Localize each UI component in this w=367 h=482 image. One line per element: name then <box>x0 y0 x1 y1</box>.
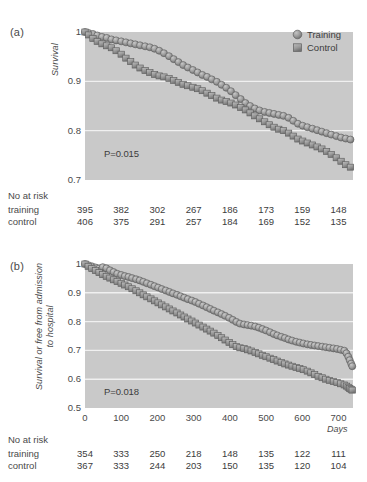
panel_b-y-tick-4: 0.9 <box>55 287 81 298</box>
risk-cell: 184 <box>215 216 245 227</box>
legend-item-control: Control <box>292 41 341 54</box>
risk-cell: 120 <box>287 460 317 471</box>
risk-cell: 122 <box>287 448 317 459</box>
risk-cell: 250 <box>142 448 172 459</box>
risk-cell: 135 <box>251 460 281 471</box>
legend-item-training: Training <box>292 28 341 41</box>
risk-cell: 169 <box>251 216 281 227</box>
panel-b-risk-row-label-control: control <box>8 460 37 471</box>
risk-cell: 186 <box>215 204 245 215</box>
risk-cell: 203 <box>179 460 209 471</box>
panel_b-x-tick-2: 200 <box>142 412 172 423</box>
risk-cell: 302 <box>142 204 172 215</box>
risk-cell: 104 <box>324 460 354 471</box>
legend-label-training: Training <box>307 29 341 40</box>
risk-cell: 244 <box>142 460 172 471</box>
panel-a-risk-row-label-control: control <box>8 216 37 227</box>
panel_a-y-tick-3: 1 <box>55 26 81 37</box>
footer-strip <box>0 474 367 482</box>
panel_b-y-tick-3: 0.8 <box>55 316 81 327</box>
panel-b-pvalue: P=0.018 <box>104 386 139 397</box>
square-marker-icon <box>292 42 303 53</box>
panel_b-y-tick-2: 0.7 <box>55 344 81 355</box>
risk-cell: 152 <box>287 216 317 227</box>
panel-a-risk-title: No at risk <box>8 190 48 201</box>
panel-b-x-axis-label: Days <box>327 424 348 434</box>
risk-cell: 382 <box>106 204 136 215</box>
panel_a-y-tick-2: 0.9 <box>55 75 81 86</box>
risk-cell: 148 <box>215 448 245 459</box>
risk-cell: 367 <box>70 460 100 471</box>
panel_b-x-tick-1: 100 <box>106 412 136 423</box>
panel_b-x-tick-7: 700 <box>324 412 354 423</box>
panel_a-y-tick-0: 0.7 <box>55 174 81 185</box>
risk-cell: 291 <box>142 216 172 227</box>
panel-a-pvalue: P=0.015 <box>104 148 139 159</box>
risk-cell: 375 <box>106 216 136 227</box>
panel_b-y-tick-1: 0.6 <box>55 373 81 384</box>
risk-cell: 257 <box>179 216 209 227</box>
panel_b-x-tick-5: 500 <box>251 412 281 423</box>
risk-cell: 395 <box>70 204 100 215</box>
chart-legend: Training Control <box>292 28 341 54</box>
circle-marker-icon <box>292 29 303 40</box>
risk-cell: 159 <box>287 204 317 215</box>
panel-b: (b) Survival or free from admission to h… <box>0 238 367 482</box>
panel-a: (a) Survival P=0.015 Training <box>0 0 367 238</box>
risk-cell: 406 <box>70 216 100 227</box>
risk-cell: 135 <box>324 216 354 227</box>
panel_b-x-tick-6: 600 <box>287 412 317 423</box>
panel-b-risk-row-label-training: training <box>8 448 39 459</box>
panel-b-plot <box>0 238 367 482</box>
risk-cell: 354 <box>70 448 100 459</box>
risk-cell: 173 <box>251 204 281 215</box>
panel_b-x-tick-3: 300 <box>179 412 209 423</box>
risk-cell: 333 <box>106 448 136 459</box>
risk-cell: 135 <box>251 448 281 459</box>
panel_b-y-tick-5: 1 <box>55 258 81 269</box>
panel-a-risk-row-label-training: training <box>8 204 39 215</box>
risk-cell: 333 <box>106 460 136 471</box>
panel-b-risk-title: No at risk <box>8 434 48 445</box>
risk-cell: 218 <box>179 448 209 459</box>
legend-label-control: Control <box>307 42 338 53</box>
survival-figure: (a) Survival P=0.015 Training <box>0 0 367 482</box>
risk-cell: 111 <box>324 448 354 459</box>
panel_b-x-tick-4: 400 <box>215 412 245 423</box>
risk-cell: 148 <box>324 204 354 215</box>
panel_a-y-tick-1: 0.8 <box>55 125 81 136</box>
risk-cell: 150 <box>215 460 245 471</box>
panel_b-x-tick-0: 0 <box>70 412 100 423</box>
risk-cell: 267 <box>179 204 209 215</box>
